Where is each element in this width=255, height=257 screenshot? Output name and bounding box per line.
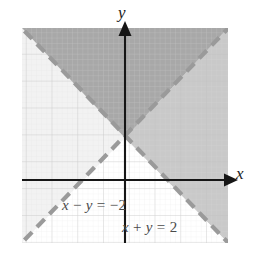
line1-operator: − (69, 197, 86, 213)
y-axis-label: y (118, 4, 126, 21)
line1-var-y: y (86, 197, 93, 213)
line2-var-y: y (146, 219, 153, 235)
line2-operator: + (129, 219, 146, 235)
equation-label-x-plus-y: x + y = 2 (122, 220, 178, 235)
x-axis-label: x (236, 165, 244, 182)
equation-label-x-minus-y: x − y = −2 (62, 198, 126, 213)
line2-rhs: 2 (170, 219, 178, 235)
line2-equals: = (153, 219, 170, 235)
line1-equals: = (93, 197, 110, 213)
graph-figure: y x x − y = −2 x + y = 2 (0, 0, 255, 257)
line2-var-x: x (122, 219, 129, 235)
line1-var-x: x (62, 197, 69, 213)
line1-rhs: −2 (110, 197, 127, 213)
